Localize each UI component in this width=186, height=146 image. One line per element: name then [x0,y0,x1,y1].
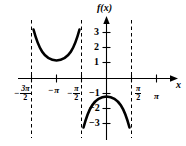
y-tick-label-neg1: −1 [89,88,100,98]
y-tick-label-neg2: −2 [89,103,100,113]
y-tick-label-3: 3 [94,27,99,37]
curve-branch-upper-left [34,30,80,61]
x-tick-label-neg-pi-over-2: − π 2 [67,85,80,103]
y-axis-label: f(x) [97,3,112,13]
minus-sign: − [67,89,72,98]
fraction-denominator: 2 [73,94,79,102]
graph-figure: f(x) x 3 2 1 −1 −2 −3 − 3π 2 − π − π 2 [0,0,186,146]
x-tick-label-neg-3pi-over-2: − 3π 2 [14,85,31,103]
x-axis [18,75,178,81]
minus-sign: − [48,86,53,95]
pi-symbol: π [54,86,59,95]
y-tick-label-neg3: −3 [89,118,100,128]
y-tick-label-2: 2 [94,42,99,52]
y-tick-label-1: 1 [94,57,99,67]
fraction-denominator: 2 [20,94,30,102]
x-tick-label-pi-over-2: π 2 [135,85,141,103]
x-tick-label-neg-pi: − π [48,86,59,95]
minus-sign: − [14,89,19,98]
pi-symbol: π [154,91,159,101]
fraction-denominator: 2 [135,94,141,102]
x-tick-label-pi: π [154,86,159,102]
x-axis-label: x [176,80,181,90]
